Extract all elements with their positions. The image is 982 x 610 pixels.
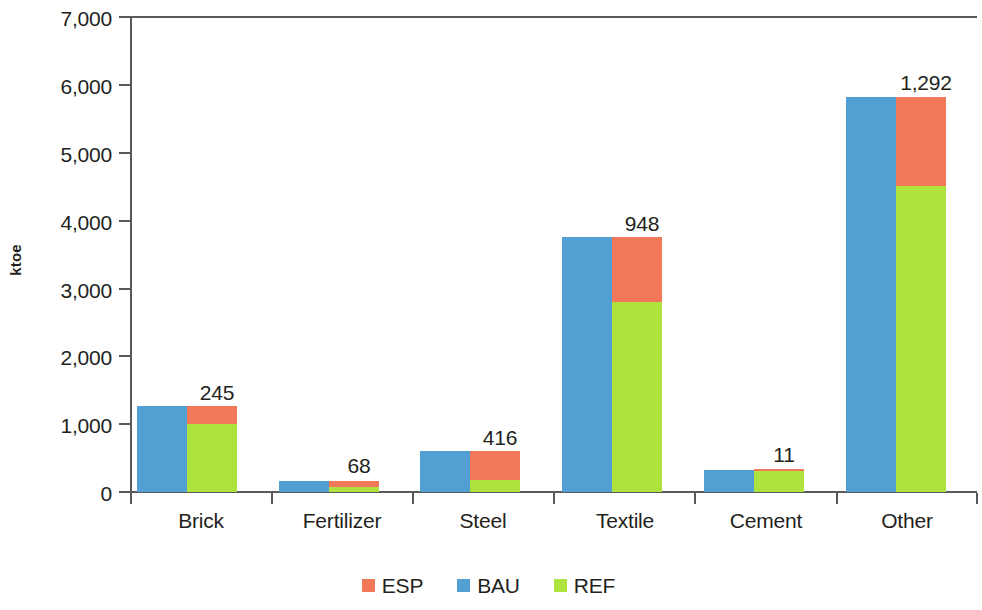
bar-value-label: 245: [157, 382, 277, 403]
x-tick-mark: [694, 493, 696, 504]
bar-segment-esp[interactable]: [612, 237, 662, 302]
x-category-label-fertilizer: Fertilizer: [262, 509, 422, 533]
bar-group-steel[interactable]: 416: [420, 17, 520, 492]
bar-segment-esp[interactable]: [470, 451, 520, 480]
legend-item-bau[interactable]: BAU: [457, 575, 520, 596]
plot-area: 245 68 416 948 11: [132, 17, 977, 492]
x-tick-mark: [130, 493, 132, 504]
x-tick-mark: [412, 493, 414, 504]
bar-segment-bau[interactable]: [704, 470, 754, 492]
bar-segment-ref[interactable]: [612, 302, 662, 492]
legend-label-esp: ESP: [382, 575, 423, 596]
y-tick-label: 7,000: [28, 8, 112, 29]
bar-segment-bau[interactable]: [279, 481, 329, 492]
bar-segment-bau[interactable]: [420, 451, 470, 492]
bar-value-label: 948: [582, 213, 702, 234]
x-category-label-brick: Brick: [121, 509, 281, 533]
y-tick-label: 5,000: [28, 144, 112, 165]
bar-segment-bau[interactable]: [137, 406, 187, 492]
bar-segment-ref[interactable]: [754, 471, 804, 492]
legend-item-esp[interactable]: ESP: [362, 575, 423, 596]
x-tick-mark: [271, 493, 273, 504]
x-tick-mark: [836, 493, 838, 504]
bar-segment-esp[interactable]: [754, 469, 804, 471]
bar-group-other[interactable]: 1,292: [846, 17, 946, 492]
legend-label-ref: REF: [574, 575, 615, 596]
bar-value-label: 416: [440, 427, 560, 448]
bar-segment-ref[interactable]: [896, 186, 946, 492]
legend-label-bau: BAU: [477, 575, 520, 596]
y-tick-label: 4,000: [28, 212, 112, 233]
x-category-label-cement: Cement: [686, 509, 846, 533]
x-category-label-other: Other: [827, 509, 982, 533]
y-tick-label: 6,000: [28, 76, 112, 97]
bar-value-label: 68: [299, 455, 419, 476]
bar-segment-bau[interactable]: [562, 237, 612, 492]
y-tick-label: 3,000: [28, 280, 112, 301]
bar-value-label: 1,292: [866, 72, 982, 93]
x-tick-mark: [976, 493, 978, 504]
bar-group-brick[interactable]: 245: [137, 17, 237, 492]
bar-value-label: 11: [724, 444, 844, 465]
y-axis-tick-labels: 7,000 6,000 5,000 4,000 3,000 2,000 1,00…: [12, 0, 112, 610]
legend-swatch-bau-icon: [457, 579, 470, 592]
bar-group-textile[interactable]: 948: [562, 17, 662, 492]
bar-segment-bau[interactable]: [846, 97, 896, 492]
y-tick-label: 0: [28, 483, 112, 504]
chart-legend: ESP BAU REF: [0, 575, 977, 596]
legend-swatch-ref-icon: [554, 579, 567, 592]
x-tick-mark: [553, 493, 555, 504]
bar-segment-esp[interactable]: [896, 97, 946, 186]
y-tick-label: 2,000: [28, 347, 112, 368]
legend-swatch-esp-icon: [362, 579, 375, 592]
bar-segment-ref[interactable]: [329, 487, 379, 492]
bar-group-fertilizer[interactable]: 68: [279, 17, 379, 492]
x-category-label-steel: Steel: [403, 509, 563, 533]
bar-group-cement[interactable]: 11: [704, 17, 804, 492]
y-tick-label: 1,000: [28, 415, 112, 436]
legend-item-ref[interactable]: REF: [554, 575, 615, 596]
bar-segment-esp[interactable]: [329, 481, 379, 487]
bar-segment-ref[interactable]: [470, 480, 520, 492]
bar-segment-ref[interactable]: [187, 424, 237, 492]
x-category-label-textile: Textile: [545, 509, 705, 533]
bar-segment-esp[interactable]: [187, 406, 237, 424]
